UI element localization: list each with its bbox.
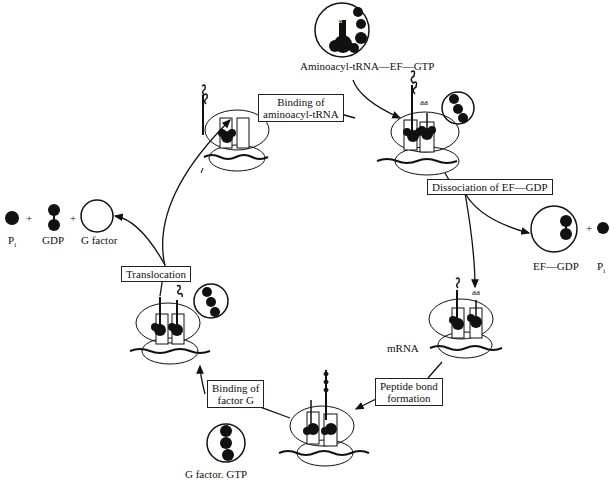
step-binding-aminoacyl-trna: Binding ofaminoacyl-tRNA [258, 94, 344, 122]
elongation-cycle-diagram: Aminoacyl-tRNA—EF—GTP aa aa aa Pi + GDP … [0, 0, 616, 486]
pi-right-label: Pi [597, 260, 605, 277]
step-peptide-bond-formation: Peptide bondformation [375, 378, 443, 406]
step-dissociation-ef-gdp: Dissociation of EF—GDP [427, 179, 553, 195]
ribosome-3 [429, 278, 502, 358]
ribosome-5 [130, 284, 228, 364]
ribosome-4 [279, 370, 369, 466]
cycle-arrows [115, 80, 529, 418]
aminoacyl-ef-gtp-complex-icon [315, 3, 369, 57]
mrna-label: mRNA [387, 342, 419, 354]
products-right [531, 206, 609, 252]
aa-right-label: aa [472, 286, 480, 298]
g-factor-label: G factor [81, 234, 117, 246]
aminoacyl-complex-label: Aminoacyl-tRNA—EF—GTP [300, 60, 434, 72]
aa-complex-label: aa [335, 15, 342, 27]
products-left [5, 200, 113, 232]
ef-gdp-label: EF—GDP [533, 260, 579, 272]
step-translocation: Translocation [121, 266, 191, 282]
plus-sign: + [586, 222, 592, 234]
plus-sign: + [70, 212, 76, 224]
gdp-left-label: GDP [42, 234, 64, 246]
pi-left-label: Pi [8, 234, 16, 251]
aa-top-label: aa [420, 96, 428, 108]
g-factor-gtp-icon [207, 424, 245, 462]
ribosome-2 [377, 71, 474, 175]
plus-sign: + [26, 212, 32, 224]
g-factor-gtp-label: G factor. GTP [185, 468, 247, 480]
step-binding-factor-g: Binding offactor G [207, 380, 264, 408]
